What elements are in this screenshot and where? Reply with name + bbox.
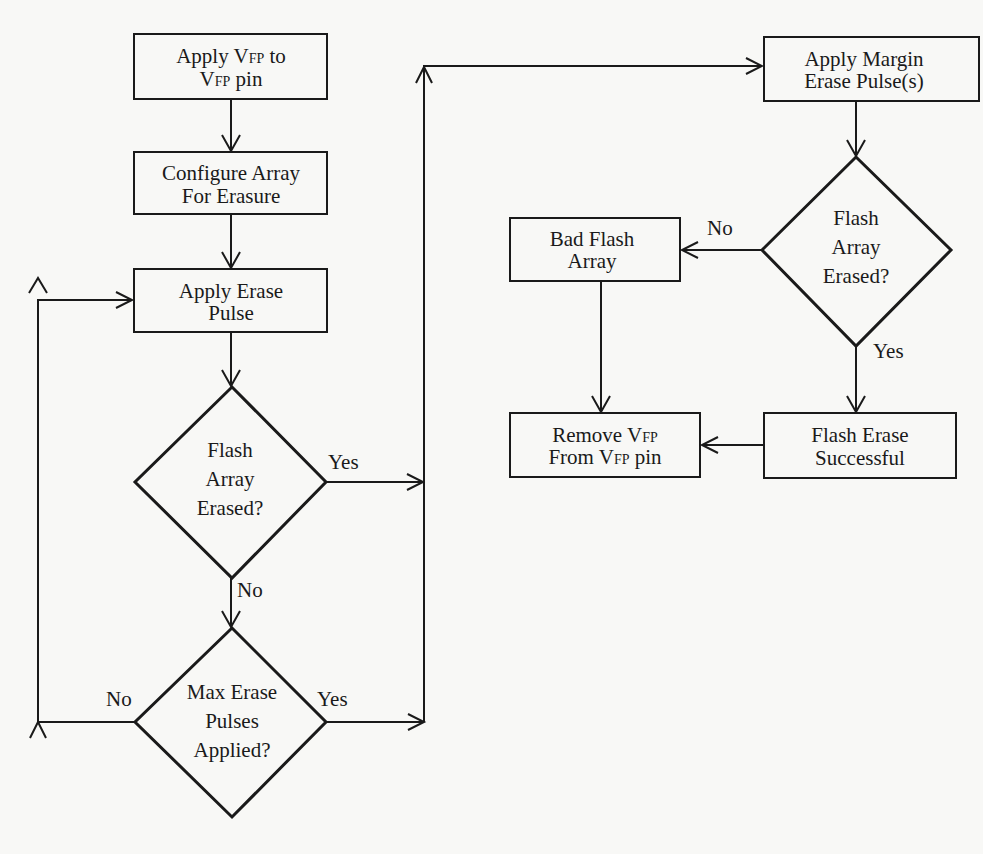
node-remove-vfp-line2: From VFP pin (548, 445, 662, 469)
node-apply-margin-line1: Apply Margin (804, 47, 924, 71)
edge-max-no-loop (38, 300, 135, 722)
label-yes-check1: Yes (328, 450, 359, 474)
label-no-max: No (106, 687, 132, 711)
label-yes-max: Yes (317, 687, 348, 711)
node-flash-erased-1-line2: Array (206, 467, 255, 491)
label-no-check2: No (707, 216, 733, 240)
node-flash-erased-1-line1: Flash (207, 438, 253, 462)
flowchart: Apply VFP to VFP pin Configure Array For… (0, 0, 983, 854)
node-apply-vfp-line2: VFP pin (200, 67, 263, 91)
node-configure-array-line2: For Erasure (182, 184, 281, 208)
node-flash-erased-2-line1: Flash (833, 206, 879, 230)
node-apply-vfp-line1: Apply VFP to (176, 44, 286, 68)
node-configure-array-line1: Configure Array (162, 161, 301, 185)
arrowhead-icon (29, 278, 47, 293)
node-bad-flash-line1: Bad Flash (550, 227, 635, 251)
node-max-pulses-line3: Applied? (194, 738, 271, 762)
node-flash-erased-2-line2: Array (832, 235, 881, 259)
node-remove-vfp-line1: Remove VFP (552, 423, 658, 447)
edge-to-margin (424, 66, 762, 722)
node-erase-success-line2: Successful (815, 446, 905, 470)
node-flash-erased-2-line3: Erased? (823, 264, 889, 288)
node-apply-erase-pulse-line2: Pulse (208, 301, 254, 325)
node-erase-success-line1: Flash Erase (811, 423, 908, 447)
node-flash-erased-1-line3: Erased? (197, 496, 263, 520)
node-apply-margin-line2: Erase Pulse(s) (804, 69, 924, 93)
label-yes-check2: Yes (873, 339, 904, 363)
arrowhead-icon (30, 722, 46, 738)
flowchart-canvas: Apply VFP to VFP pin Configure Array For… (0, 0, 983, 854)
node-bad-flash-line2: Array (568, 249, 617, 273)
node-max-pulses-line1: Max Erase (187, 680, 277, 704)
node-max-pulses-line2: Pulses (205, 709, 259, 733)
node-apply-erase-pulse-line1: Apply Erase (179, 279, 283, 303)
label-no-check1: No (237, 578, 263, 602)
